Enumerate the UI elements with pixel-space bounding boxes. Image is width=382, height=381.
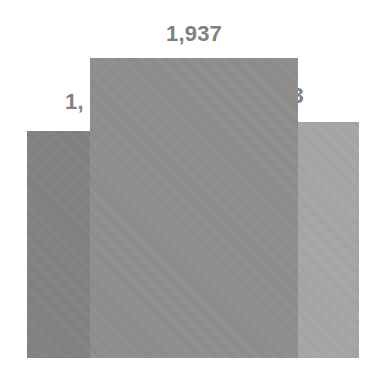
bar-chart: 1, 33 1,937: [0, 0, 382, 381]
bar-value-label-2: 1,937: [90, 23, 298, 45]
plot-area: 1, 33 1,937: [0, 0, 382, 381]
bar-value-label-1: 1,: [65, 91, 84, 113]
bar-1[interactable]: [27, 131, 90, 358]
bar-2[interactable]: [90, 58, 298, 358]
bar-3[interactable]: [298, 122, 359, 358]
